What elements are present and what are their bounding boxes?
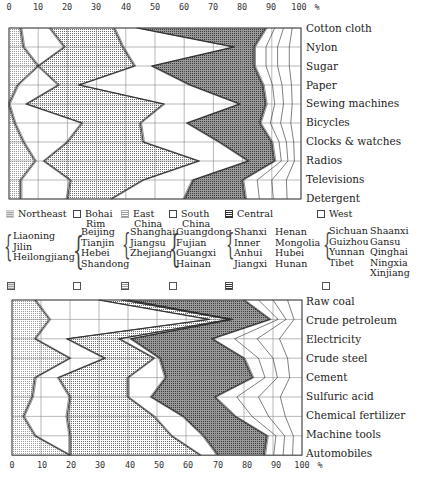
- bohai-swatch-icon: [73, 210, 81, 218]
- tick-30: 30: [95, 460, 105, 470]
- central-provinces-col1: Shanxi Inner Anhui Jiangxi: [234, 227, 267, 269]
- south-provinces: Guangdong Fujian Guangxi Hainan: [176, 227, 232, 269]
- row-label-chemical-fertilizer: Chemical fertilizer: [306, 409, 405, 421]
- row-label-televisions: Televisions: [306, 173, 364, 185]
- bohai-swatch-2-icon: [73, 282, 81, 290]
- northeast-swatch-2-icon: [7, 282, 15, 290]
- top-chart-plot: [8, 27, 304, 202]
- tick-30: 30: [91, 2, 101, 12]
- tick-40: 40: [121, 2, 131, 12]
- row-label-nylon: Nylon: [306, 41, 338, 53]
- row-label-crude-steel: Crude steel: [306, 352, 367, 364]
- row-label-electricity: Electricity: [306, 333, 361, 345]
- top-x-axis-ticks: 0 10 20 30 40 50 60 70 80 90 100 %: [0, 2, 421, 14]
- tick-70: 70: [213, 460, 223, 470]
- tick-50: 50: [150, 2, 160, 12]
- west-provinces-col2: Shaanxi Gansu Qinghai Ningxia Xinjiang: [370, 226, 410, 279]
- row-label-sulfuric-acid: Sulfuric acid: [306, 390, 374, 402]
- tick-90: 90: [271, 460, 281, 470]
- tick-100: 100: [291, 2, 306, 12]
- central-provinces-col2: Henan Mongolia Hubei Hunan: [275, 227, 320, 269]
- bottom-chart-plot: [11, 299, 305, 457]
- row-label-sugar: Sugar: [306, 60, 338, 72]
- legend-northeast: Northeast: [6, 209, 67, 220]
- tick-10: 10: [33, 2, 43, 12]
- row-label-sewing-machines: Sewing machines: [306, 97, 399, 109]
- central-swatch-icon: [225, 210, 233, 218]
- west-provinces-col1: Sichuan Guizhou Yunnan Tibet: [329, 226, 369, 268]
- tick-60: 60: [179, 2, 189, 12]
- tick-50: 50: [154, 460, 164, 470]
- tick-unit: %: [314, 2, 319, 12]
- tick-0: 0: [9, 460, 14, 470]
- legend-central: Central: [225, 209, 273, 220]
- tick-90: 90: [266, 2, 276, 12]
- tick-100: 100: [294, 460, 309, 470]
- tick-10: 10: [37, 460, 47, 470]
- west-swatch-2-icon: [322, 282, 330, 290]
- row-label-cement: Cement: [306, 371, 347, 383]
- tick-0: 0: [6, 2, 11, 12]
- tick-70: 70: [208, 2, 218, 12]
- tick-40: 40: [125, 460, 135, 470]
- tick-unit: %: [317, 460, 322, 470]
- tick-20: 20: [62, 2, 72, 12]
- northeast-swatch-icon: [6, 210, 14, 218]
- northeast-provinces: Liaoning Jilin Heilongjiang: [13, 231, 75, 263]
- west-swatch-icon: [317, 210, 325, 218]
- row-label-cotton-cloth: Cotton cloth: [306, 22, 372, 34]
- row-label-radios: Radios: [306, 154, 342, 166]
- row-label-paper: Paper: [306, 79, 337, 91]
- south-swatch-2-icon: [169, 282, 177, 290]
- tick-20: 20: [66, 460, 76, 470]
- row-label-automobiles: Automobiles: [306, 447, 372, 459]
- tick-80: 80: [242, 460, 252, 470]
- row-label-bicycles: Bicycles: [306, 116, 350, 128]
- tick-60: 60: [183, 460, 193, 470]
- east-swatch-icon: [121, 210, 129, 218]
- legend: Northeast Bohai Rim East China South Chi…: [0, 200, 421, 290]
- tick-80: 80: [237, 2, 247, 12]
- row-label-clocks-watches: Clocks & watches: [306, 135, 401, 147]
- row-label-raw-coal: Raw coal: [306, 295, 355, 307]
- legend-west: West: [317, 209, 352, 220]
- south-swatch-icon: [169, 210, 177, 218]
- brace-icon: {: [4, 231, 13, 261]
- bottom-x-axis-ticks: 0 10 20 30 40 50 60 70 80 90 100 %: [0, 460, 421, 472]
- east-swatch-2-icon: [121, 282, 129, 290]
- row-label-crude-petroleum: Crude petroleum: [306, 314, 397, 326]
- central-swatch-2-icon: [225, 282, 233, 290]
- row-label-machine-tools: Machine tools: [306, 428, 381, 440]
